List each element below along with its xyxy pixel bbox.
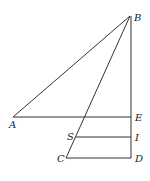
label-c: C — [57, 153, 65, 164]
label-a: A — [8, 119, 16, 130]
label-i: I — [134, 132, 140, 143]
segment-ab — [13, 16, 130, 117]
geometry-diagram: B A E S I C D — [0, 0, 150, 181]
label-e: E — [134, 112, 143, 123]
label-s: S — [67, 131, 74, 142]
label-b: B — [133, 12, 141, 23]
label-d: D — [134, 153, 143, 164]
